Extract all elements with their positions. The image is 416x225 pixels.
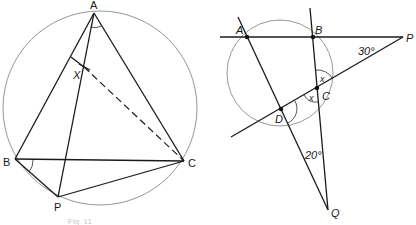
label-B: B: [315, 24, 322, 36]
side-AC: [94, 13, 184, 161]
figure-caption: Fig. 11: [68, 217, 92, 225]
label-A: A: [235, 24, 243, 36]
angle-arc-A: [91, 26, 102, 28]
label-D: D: [275, 113, 283, 125]
label-B: B: [3, 156, 10, 168]
label-Q: Q: [331, 207, 340, 219]
label-X: X: [72, 69, 81, 81]
angle-label-Q: 20°: [304, 149, 322, 161]
geometry-diagrams: A B C P X Fig. 11 A B P C D Q 30° 20°: [0, 0, 416, 225]
segment-AP: [58, 13, 94, 197]
circumcircle: [3, 11, 197, 205]
segment-CP: [58, 161, 184, 197]
segment-BP: [15, 159, 58, 197]
angle-label-x-upper: x: [319, 74, 325, 84]
angle-label-P: 30°: [358, 45, 375, 57]
label-A: A: [90, 0, 98, 11]
dashed-segment-XC: [84, 67, 184, 161]
angle-arc-D: [288, 101, 297, 123]
label-P: P: [406, 32, 414, 44]
point-A: [245, 35, 249, 39]
angle-arc-B: [29, 160, 33, 172]
point-C: [315, 86, 319, 90]
point-D: [279, 107, 283, 111]
right-figure-intersecting-lines: A B P C D Q 30° 20° x x: [220, 8, 414, 219]
side-BC: [15, 159, 184, 161]
label-P: P: [54, 201, 61, 213]
label-C: C: [188, 157, 196, 169]
side-AB: [15, 13, 94, 159]
angle-label-x-lower: x: [308, 93, 314, 103]
label-C: C: [322, 90, 330, 102]
left-figure-cyclic-triangle: A B C P X Fig. 11: [3, 0, 197, 225]
